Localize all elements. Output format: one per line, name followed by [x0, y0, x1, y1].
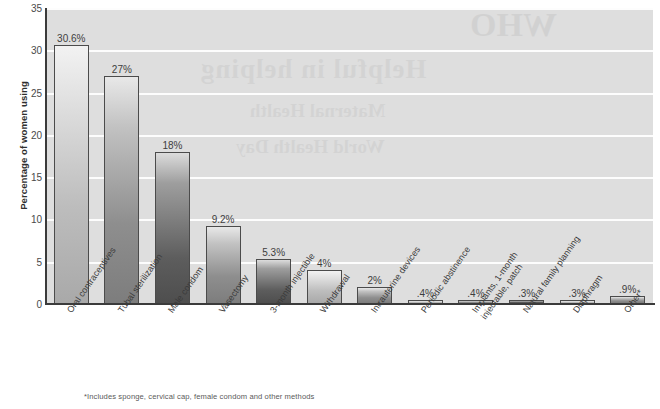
y-tick-label: 10	[4, 214, 42, 225]
bar-chart: Percentage of women using 35 30 25 20 15…	[0, 0, 660, 409]
bar: 27%	[104, 76, 139, 304]
bar-value-label: 27%	[112, 64, 132, 75]
bar-value-label: 5.3%	[262, 247, 285, 258]
bar: 30.6%	[54, 45, 89, 304]
y-axis-title: Percentage of women using	[18, 31, 29, 261]
bar-value-label: 30.6%	[57, 33, 85, 44]
footnote: *Includes sponge, cervical cap, female c…	[84, 392, 314, 401]
bar-value-label: 18%	[162, 140, 182, 151]
y-tick-label: 25	[4, 87, 42, 98]
bar-value-label: 2%	[368, 275, 382, 286]
bar-value-label: 4%	[317, 258, 331, 269]
y-tick-label: 35	[4, 3, 42, 14]
y-axis: Percentage of women using 35 30 25 20 15…	[0, 0, 42, 409]
x-axis-line	[46, 303, 655, 305]
x-axis-category-labels: Oral contraceptivesTubal sterilizationMa…	[46, 306, 653, 386]
y-tick-label: 30	[4, 45, 42, 56]
y-tick-label: 5	[4, 256, 42, 267]
bar-value-label: 9.2%	[212, 214, 235, 225]
y-tick-label: 20	[4, 129, 42, 140]
y-tick-label: 0	[4, 299, 42, 310]
y-tick-label: 15	[4, 172, 42, 183]
y-axis-line	[45, 8, 47, 305]
